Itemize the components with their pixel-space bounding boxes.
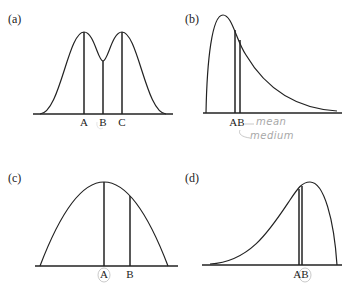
panel-c-graph xyxy=(35,182,178,266)
panel-b-label-AB: AB xyxy=(229,116,244,128)
panel-d-label-AB: AB xyxy=(293,268,308,280)
panel-b-median-pointer xyxy=(239,130,250,138)
panel-b-note-median: medium xyxy=(250,130,294,141)
panel-d-graph xyxy=(202,182,342,265)
panel-b-curve xyxy=(206,15,337,113)
panel-c-label-A: A xyxy=(100,268,108,280)
panel-a-label-B: B xyxy=(99,116,106,128)
distribution-diagrams xyxy=(0,0,358,294)
panel-c-label-B: B xyxy=(126,268,133,280)
panel-a-label: (a) xyxy=(8,12,21,27)
panel-a-graph xyxy=(33,32,173,114)
panel-b-note-mean: mean xyxy=(256,116,286,127)
panel-b-label: (b) xyxy=(185,12,199,27)
panel-b-graph xyxy=(203,15,342,113)
panel-c-label: (c) xyxy=(8,171,21,186)
panel-d-curve xyxy=(210,182,337,265)
panel-a-label-A: A xyxy=(80,116,88,128)
panel-a-label-C: C xyxy=(118,116,125,128)
panel-d-label: (d) xyxy=(185,171,199,186)
